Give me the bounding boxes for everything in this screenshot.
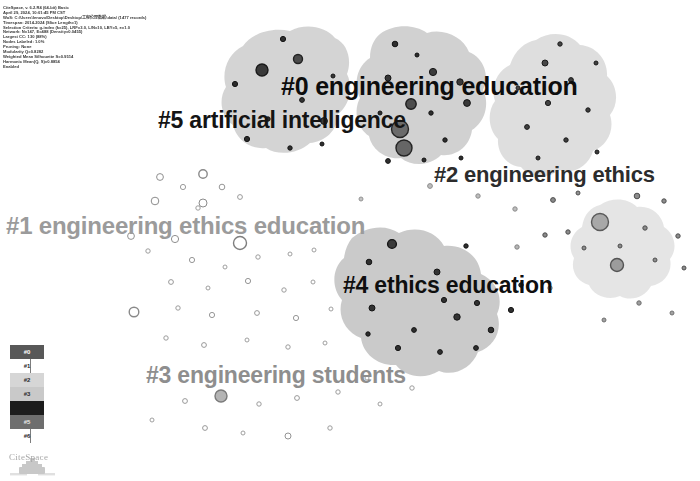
network-node[interactable] [180,184,185,189]
network-node[interactable] [282,288,286,292]
network-node[interactable] [295,396,300,401]
network-node[interactable] [586,108,590,112]
network-node[interactable] [592,214,609,231]
network-node[interactable] [199,199,207,207]
network-node[interactable] [150,418,154,422]
network-node[interactable] [256,64,268,76]
network-node[interactable] [157,174,164,181]
network-node[interactable] [488,327,494,333]
network-node[interactable] [515,245,519,249]
network-node[interactable] [202,343,207,348]
network-node[interactable] [336,390,340,394]
network-node[interactable] [428,184,433,189]
network-node[interactable] [595,150,599,154]
network-node[interactable] [634,193,640,199]
network-node[interactable] [558,42,562,46]
network-node[interactable] [566,230,570,234]
network-node[interactable] [459,156,463,160]
network-node[interactable] [602,318,606,322]
network-node[interactable] [169,280,174,285]
legend-entry-1[interactable]: #1 [10,359,44,373]
legend-entry-6[interactable]: #6 [10,429,44,443]
network-node[interactable] [412,328,417,333]
network-node[interactable] [643,226,647,230]
network-node[interactable] [378,402,382,406]
network-node[interactable] [545,100,550,105]
legend-entry-4[interactable]: #4 [10,401,44,415]
network-node[interactable] [392,41,398,47]
network-node[interactable] [294,55,303,64]
network-node[interactable] [388,240,397,249]
network-node[interactable] [536,156,540,160]
cluster-label-2[interactable]: #2 engineering ethics [434,162,655,188]
network-node[interactable] [209,312,214,317]
network-node[interactable] [320,142,324,146]
network-node[interactable] [474,300,479,305]
network-node[interactable] [637,301,641,305]
network-node[interactable] [454,314,460,320]
network-node[interactable] [576,191,580,195]
network-node[interactable] [245,278,250,283]
network-node[interactable] [513,207,517,211]
network-node[interactable] [543,233,547,237]
network-node[interactable] [653,258,657,262]
network-node[interactable] [219,184,225,190]
network-node[interactable] [257,402,261,406]
network-node[interactable] [594,61,598,65]
network-node[interactable] [386,159,391,164]
network-node[interactable] [410,386,414,390]
cluster-label-0[interactable]: #0 engineering education [281,72,578,101]
network-node[interactable] [323,341,327,345]
network-node[interactable] [196,206,200,210]
network-node[interactable] [611,259,624,272]
network-node[interactable] [293,315,298,320]
network-node[interactable] [670,311,674,315]
network-node[interactable] [676,234,680,238]
network-node[interactable] [366,332,370,336]
network-node[interactable] [328,426,332,430]
network-node[interactable] [618,244,622,248]
network-node[interactable] [232,81,237,86]
network-node[interactable] [369,305,375,311]
network-node[interactable] [176,306,180,310]
cluster-color-legend[interactable]: #0#1#2#3#4#5#6 [10,345,44,443]
network-node[interactable] [464,244,468,248]
network-node[interactable] [443,138,447,142]
cluster-label-3[interactable]: #3 engineering students [146,362,406,389]
network-node[interactable] [395,345,400,350]
network-node[interactable] [682,266,686,270]
network-node[interactable] [255,311,260,316]
network-node[interactable] [508,307,513,312]
network-node[interactable] [366,259,372,265]
network-node[interactable] [183,399,188,404]
network-node[interactable] [280,36,285,41]
network-node[interactable] [288,146,292,150]
legend-entry-0[interactable]: #0 [10,345,44,359]
legend-entry-5[interactable]: #5 [10,415,44,429]
legend-entry-2[interactable]: #2 [10,373,44,387]
cluster-label-5[interactable]: #5 artificial intelligence [158,107,406,134]
network-node[interactable] [129,307,139,317]
network-node[interactable] [189,257,194,262]
network-node[interactable] [474,346,479,351]
network-node[interactable] [429,111,433,115]
network-node[interactable] [206,286,210,290]
network-node[interactable] [241,431,245,435]
legend-entry-3[interactable]: #3 [10,387,44,401]
network-node[interactable] [311,280,315,284]
network-node[interactable] [285,433,291,439]
network-node[interactable] [525,125,530,130]
network-node[interactable] [662,199,666,203]
network-node[interactable] [244,136,249,141]
network-node[interactable] [151,197,159,205]
cluster-label-1[interactable]: #1 engineering ethics education [6,212,365,240]
network-node[interactable] [551,198,556,203]
network-node[interactable] [396,140,412,156]
network-node[interactable] [238,195,243,200]
network-node[interactable] [564,138,568,142]
network-node[interactable] [359,197,363,201]
network-node[interactable] [422,158,426,162]
network-node[interactable] [288,252,292,256]
network-node[interactable] [415,53,419,57]
network-node[interactable] [256,255,260,259]
